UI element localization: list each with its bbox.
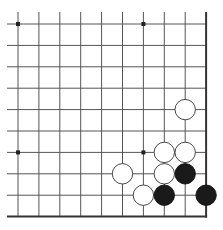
white-stone[interactable] (112, 164, 132, 184)
white-stone[interactable] (175, 99, 195, 119)
black-stone[interactable] (154, 185, 174, 205)
white-stone[interactable] (154, 142, 174, 162)
white-stone[interactable] (175, 142, 195, 162)
black-stone[interactable] (175, 164, 195, 184)
star-point (16, 150, 20, 154)
star-point (141, 22, 145, 26)
star-point (141, 150, 145, 154)
star-point (16, 22, 20, 26)
go-board[interactable] (0, 0, 223, 230)
black-stone[interactable] (196, 185, 216, 205)
white-stone[interactable] (154, 164, 174, 184)
white-stone[interactable] (133, 185, 153, 205)
